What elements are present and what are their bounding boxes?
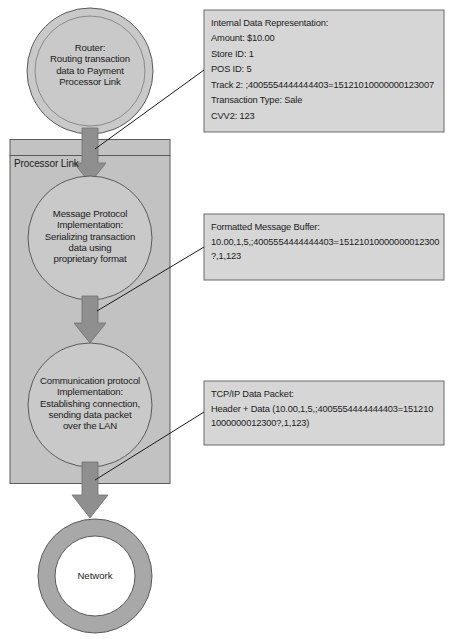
router-line-2: Routing transaction bbox=[20, 53, 160, 64]
processor-link-label: Processor Link bbox=[14, 158, 79, 170]
router-node-text: Router: Routing transaction data to Paym… bbox=[20, 42, 160, 87]
message-protocol-line-1: Message Protocol bbox=[16, 208, 164, 219]
callout1-line-3: Store ID: 1 bbox=[211, 49, 443, 60]
communication-protocol-line-3: Establishing connection, bbox=[13, 398, 167, 409]
callout3-line-2: Header + Data (10.00,1,5,;40055544444444… bbox=[211, 404, 443, 415]
message-protocol-line-5: proprietary format bbox=[16, 253, 164, 264]
callout1-line-4: POS ID: 5 bbox=[211, 64, 443, 75]
callout1-line-6: Transaction Type: Sale bbox=[211, 95, 443, 106]
callout3-line-3: 1000000012300?,1,123) bbox=[211, 418, 443, 429]
communication-protocol-line-2: Implementation: bbox=[13, 386, 167, 397]
callout1-line-7: CVV2: 123 bbox=[211, 111, 443, 122]
router-line-1: Router: bbox=[20, 42, 160, 53]
network-node-label: Network bbox=[55, 570, 135, 581]
callout-formatted-message-buffer: Formatted Message Buffer: 10.00,1,5,;400… bbox=[211, 222, 443, 262]
callout-internal-data-representation: Internal Data Representation: Amount: $1… bbox=[211, 18, 443, 126]
communication-protocol-node-text: Communication protocol Implementation: E… bbox=[13, 375, 167, 432]
message-protocol-line-2: Implementation: bbox=[16, 219, 164, 230]
callout1-line-1: Internal Data Representation: bbox=[211, 18, 443, 29]
message-protocol-line-3: Serializing transaction bbox=[16, 231, 164, 242]
message-protocol-node-text: Message Protocol Implementation: Seriali… bbox=[16, 208, 164, 265]
communication-protocol-line-1: Communication protocol bbox=[13, 375, 167, 386]
router-line-3: data to Payment bbox=[20, 65, 160, 76]
callout1-line-5: Track 2: ;4005554444444403=1512101000000… bbox=[211, 80, 443, 91]
router-line-4: Processor Link bbox=[20, 76, 160, 87]
callout3-line-1: TCP/IP Data Packet: bbox=[211, 389, 443, 400]
communication-protocol-line-4: sending data packet bbox=[13, 409, 167, 420]
callout2-line-1: Formatted Message Buffer: bbox=[211, 222, 443, 233]
callout2-line-3: ?,1,123 bbox=[211, 251, 443, 262]
callout2-line-2: 10.00,1,5,;4005554444444403=151210100000… bbox=[211, 237, 443, 248]
message-protocol-line-4: data using bbox=[16, 242, 164, 253]
callout-tcp-ip-data-packet: TCP/IP Data Packet: Header + Data (10.00… bbox=[211, 389, 443, 429]
communication-protocol-line-5: over the LAN bbox=[13, 420, 167, 431]
callout1-line-2: Amount: $10.00 bbox=[211, 33, 443, 44]
diagram-canvas: .sh { fill:#c9c9c9; stroke:#5a5a5a; stro… bbox=[0, 0, 452, 639]
